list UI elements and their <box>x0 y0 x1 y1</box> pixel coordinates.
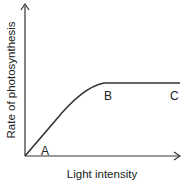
y-axis-label: Rate of photosynthesis <box>5 21 17 138</box>
point-label-c: C <box>170 89 179 103</box>
photosynthesis-graph: A B C Light intensity Rate of photosynth… <box>0 0 187 185</box>
x-axis-label: Light intensity <box>67 168 138 180</box>
point-label-a: A <box>41 144 49 158</box>
point-label-b: B <box>104 89 112 103</box>
